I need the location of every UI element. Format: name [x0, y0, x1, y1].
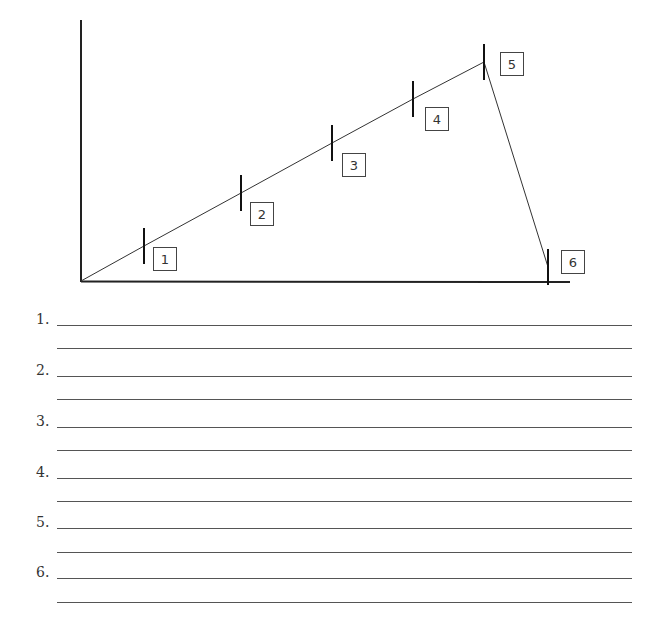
x-axis: [81, 282, 570, 283]
point-marker-1: 1: [144, 228, 177, 271]
answer-number-2: 2.: [36, 362, 49, 378]
point-label: 3: [350, 158, 358, 173]
point-label: 4: [433, 112, 441, 127]
point-marker-3: 3: [332, 125, 366, 177]
answer-line[interactable]: [57, 348, 632, 349]
graph-line: [81, 62, 548, 281]
answer-line[interactable]: [57, 501, 632, 502]
line-graph-diagram: 123456: [0, 0, 662, 300]
answer-line[interactable]: [57, 478, 632, 479]
answer-line[interactable]: [57, 427, 632, 428]
point-label: 5: [508, 57, 516, 72]
point-marker-5: 5: [484, 44, 524, 80]
answer-number-1: 1.: [36, 311, 49, 327]
answer-line[interactable]: [57, 450, 632, 451]
point-label: 2: [258, 207, 266, 222]
answer-line[interactable]: [57, 376, 632, 377]
point-marker-2: 2: [241, 175, 274, 226]
answer-line[interactable]: [57, 399, 632, 400]
answer-number-5: 5.: [36, 514, 49, 530]
answer-line[interactable]: [57, 552, 632, 553]
answer-number-4: 4.: [36, 464, 49, 480]
point-marker-6: 6: [548, 249, 585, 285]
answer-line[interactable]: [57, 578, 632, 579]
point-label: 1: [161, 252, 169, 267]
answer-number-3: 3.: [36, 413, 49, 429]
answer-line[interactable]: [57, 325, 632, 326]
point-label: 6: [569, 255, 577, 270]
answer-line[interactable]: [57, 528, 632, 529]
point-marker-4: 4: [413, 81, 449, 131]
answer-line[interactable]: [57, 602, 632, 603]
answer-number-6: 6.: [36, 564, 49, 580]
